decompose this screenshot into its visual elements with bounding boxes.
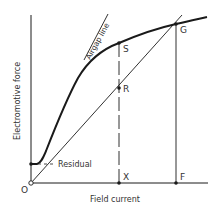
- label-g: G: [180, 25, 187, 35]
- label-x: X: [123, 172, 129, 182]
- magnetisation-diagram: S R G X F O Residual Airgap line Field c…: [0, 0, 222, 210]
- field-resistance-line: [31, 15, 182, 183]
- point-g: [174, 22, 178, 26]
- label-r: R: [123, 84, 129, 94]
- point-x: [117, 181, 121, 185]
- label-f: F: [180, 172, 185, 182]
- y-axis-label: Electromotive force: [13, 62, 22, 140]
- label-origin: O: [21, 185, 28, 195]
- label-s: S: [123, 44, 129, 54]
- point-s: [117, 41, 121, 45]
- point-f: [174, 181, 178, 185]
- x-axis-label: Field current: [90, 195, 140, 204]
- point-residual: [29, 162, 33, 166]
- label-residual: Residual: [58, 160, 92, 169]
- point-origin: [29, 181, 33, 185]
- point-r: [117, 86, 121, 90]
